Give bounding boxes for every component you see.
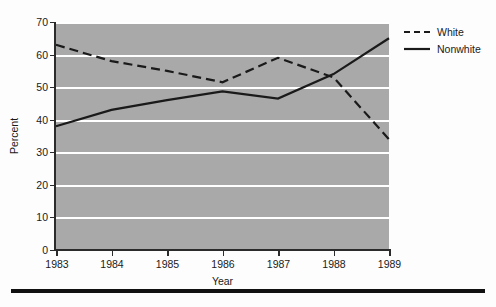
y-axis-title: Percent xyxy=(8,96,20,176)
x-tick-label-1988: 1988 xyxy=(310,258,358,270)
y-tick-40 xyxy=(50,120,55,121)
y-tick-60 xyxy=(50,55,55,56)
legend-label-white: White xyxy=(437,26,464,38)
chart-legend: White Nonwhite xyxy=(404,24,492,58)
x-tick-1987 xyxy=(278,250,280,256)
x-tick-label-1989: 1989 xyxy=(366,258,414,270)
x-tick-1985 xyxy=(167,250,169,256)
y-tick-30 xyxy=(50,152,55,153)
y-tick-0 xyxy=(50,250,55,251)
x-tick-1983 xyxy=(56,250,58,256)
x-tick-label-1983: 1983 xyxy=(33,258,81,270)
x-tick-1989 xyxy=(389,250,391,256)
x-tick-label-1987: 1987 xyxy=(255,258,303,270)
x-axis-title: Year xyxy=(56,275,389,287)
solid-line-icon xyxy=(404,44,430,54)
x-tick-1984 xyxy=(112,250,114,256)
x-tick-1988 xyxy=(334,250,336,256)
legend-item-nonwhite: Nonwhite xyxy=(404,41,492,56)
y-tick-label-20: 20 xyxy=(2,180,48,190)
legend-label-nonwhite: Nonwhite xyxy=(437,43,481,55)
series-svg xyxy=(56,22,389,250)
x-tick-1986 xyxy=(223,250,225,256)
x-tick-label-1986: 1986 xyxy=(199,258,247,270)
dashed-line-icon xyxy=(404,27,430,37)
y-tick-20 xyxy=(50,185,55,186)
y-tick-70 xyxy=(50,22,55,23)
figure-container: 70 60 50 40 30 20 10 0 1983 1984 1985 19… xyxy=(0,0,496,307)
y-tick-label-60: 60 xyxy=(2,50,48,60)
bottom-divider xyxy=(11,289,485,293)
y-tick-label-0: 0 xyxy=(2,245,48,255)
x-tick-label-1984: 1984 xyxy=(88,258,136,270)
x-tick-label-1985: 1985 xyxy=(144,258,192,270)
plot-area xyxy=(56,22,389,250)
y-tick-label-10: 10 xyxy=(2,212,48,222)
y-tick-10 xyxy=(50,217,55,218)
legend-item-white: White xyxy=(404,24,492,39)
y-tick-50 xyxy=(50,87,55,88)
y-tick-label-50: 50 xyxy=(2,82,48,92)
y-tick-label-70: 70 xyxy=(2,17,48,27)
